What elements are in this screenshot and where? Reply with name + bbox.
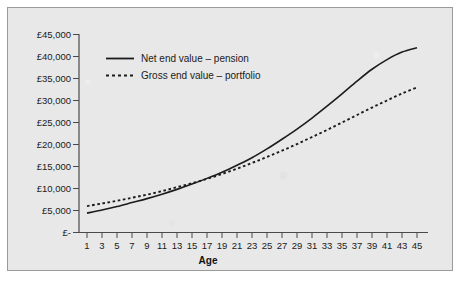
x-tick-label: 29 <box>292 240 303 251</box>
y-tick-label: £30,000 <box>37 95 71 106</box>
x-tick-label: 43 <box>397 240 408 251</box>
y-tick-label: £25,000 <box>37 117 71 128</box>
y-tick-label: £15,000 <box>37 161 71 172</box>
x-tick-label: 33 <box>322 240 333 251</box>
x-tick-label: 45 <box>412 240 423 251</box>
x-tick-label: 23 <box>247 240 258 251</box>
x-tick-label: 15 <box>187 240 198 251</box>
x-tick-label: 39 <box>367 240 378 251</box>
y-tick-label: £10,000 <box>37 183 71 194</box>
chart-figure: £45,000 £40,000 £35,000 £30,000 £25,000 … <box>7 7 453 271</box>
y-tick-label: £20,000 <box>37 139 71 150</box>
x-tick-label: 19 <box>217 240 228 251</box>
y-tick-label: £45,000 <box>37 29 71 40</box>
x-tick-label: 17 <box>202 240 213 251</box>
x-tick-label: 5 <box>114 240 119 251</box>
x-tick-label: 37 <box>352 240 363 251</box>
legend-label-gross-end-value-portfolio: Gross end value – portfolio <box>141 70 261 81</box>
x-axis-title: Age <box>199 255 218 266</box>
x-tick-label: 35 <box>337 240 348 251</box>
x-axis-ticks <box>87 233 417 239</box>
line-chart: £45,000 £40,000 £35,000 £30,000 £25,000 … <box>8 8 454 272</box>
y-tick-label: £40,000 <box>37 51 71 62</box>
x-tick-label: 31 <box>307 240 318 251</box>
x-tick-label: 41 <box>382 240 393 251</box>
x-tick-label: 13 <box>172 240 183 251</box>
y-tick-label: £35,000 <box>37 73 71 84</box>
x-tick-label: 7 <box>129 240 134 251</box>
series-gross-end-value-portfolio <box>87 87 417 206</box>
y-axis-tick-labels: £45,000 £40,000 £35,000 £30,000 £25,000 … <box>37 29 71 238</box>
x-axis-tick-labels: 1 3 5 7 9 11 13 15 17 19 21 23 25 27 29 … <box>84 240 422 251</box>
legend-label-net-end-value-pension: Net end value – pension <box>141 53 249 64</box>
x-tick-label: 27 <box>277 240 288 251</box>
x-tick-label: 21 <box>232 240 243 251</box>
x-tick-label: 1 <box>84 240 89 251</box>
y-tick-label: £5,000 <box>42 205 71 216</box>
x-tick-label: 9 <box>144 240 149 251</box>
x-tick-label: 11 <box>157 240 167 251</box>
x-tick-label: 3 <box>99 240 104 251</box>
x-tick-label: 25 <box>262 240 273 251</box>
y-axis-ticks <box>73 35 79 233</box>
y-tick-label: £- <box>63 227 71 238</box>
chart-legend: Net end value – pension Gross end value … <box>106 53 261 81</box>
